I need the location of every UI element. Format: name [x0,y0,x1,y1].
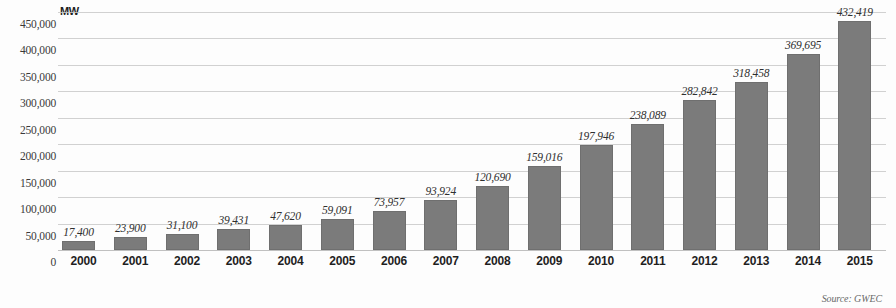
y-axis-tick-label: 100,000 [0,203,56,215]
bar[interactable] [735,82,768,250]
y-axis-tick-label: 50,000 [0,230,56,242]
x-axis-tick-label: 2000 [58,254,109,268]
y-axis-tick-label: 150,000 [0,177,56,189]
bar[interactable] [683,100,716,250]
x-axis-tick-label: 2008 [472,254,523,268]
bar-value-label: 282,842 [670,85,729,97]
bar[interactable] [321,219,354,250]
bar[interactable] [787,54,820,250]
y-axis-tick-label: 250,000 [0,124,56,136]
bar[interactable] [373,211,406,250]
bar[interactable] [476,186,509,250]
x-axis: 2000200120022003200420052006200720082009… [58,254,886,276]
y-axis-tick-label: 400,000 [0,44,56,56]
y-axis-tick-label: 0 [0,256,56,268]
bar-value-label: 31,100 [153,219,212,231]
y-axis-tick-label: 350,000 [0,71,56,83]
x-axis-tick-label: 2005 [317,254,368,268]
bar[interactable] [631,124,664,250]
bar[interactable] [114,237,147,250]
bar-value-label: 93,924 [411,185,470,197]
bar-group: 120,690 [472,12,523,250]
y-axis-tick-label: 200,000 [0,150,56,162]
bar-value-label: 47,620 [256,210,315,222]
bar-group: 23,900 [110,12,161,250]
bar-group: 282,842 [679,12,730,250]
bar-group: 93,924 [420,12,471,250]
bar[interactable] [580,145,613,250]
bar-value-label: 59,091 [308,204,367,216]
bar[interactable] [528,166,561,250]
bar-value-label: 120,690 [463,171,522,183]
bar[interactable] [62,241,95,250]
x-axis-tick-label: 2003 [213,254,264,268]
bar-value-label: 369,695 [774,39,833,51]
x-axis-tick-label: 2010 [576,254,627,268]
x-axis-tick-label: 2004 [265,254,316,268]
bar-group: 59,091 [317,12,368,250]
bar[interactable] [838,21,871,250]
wind-capacity-bar-chart: MW 450,000400,000350,000300,000250,00020… [0,0,896,308]
x-axis-tick-label: 2011 [627,254,678,268]
x-axis-tick-label: 2015 [834,254,885,268]
bar-group: 17,400 [58,12,109,250]
axis-baseline [58,250,886,251]
x-axis-tick-label: 2006 [369,254,420,268]
bar-value-label: 318,458 [722,67,781,79]
bar[interactable] [424,200,457,250]
bar-value-label: 238,089 [618,109,677,121]
bar-value-label: 197,946 [567,130,626,142]
source-note: Source: GWEC [822,293,882,304]
bar-group: 238,089 [627,12,678,250]
bars-layer: 17,40023,90031,10039,43147,62059,09173,9… [58,12,886,250]
bar[interactable] [217,229,250,250]
bar-group: 197,946 [576,12,627,250]
x-axis-tick-label: 2007 [420,254,471,268]
bar-value-label: 159,016 [515,151,574,163]
plot-area: 17,40023,90031,10039,43147,62059,09173,9… [58,12,886,250]
bar-group: 73,957 [369,12,420,250]
x-axis-tick-label: 2002 [162,254,213,268]
bar[interactable] [166,234,199,250]
x-axis-tick-label: 2009 [524,254,575,268]
bar-value-label: 39,431 [204,214,263,226]
x-axis-tick-label: 2013 [731,254,782,268]
bar-group: 432,419 [834,12,885,250]
y-axis-tick-label: 450,000 [0,18,56,30]
bar-group: 369,695 [783,12,834,250]
bar-value-label: 432,419 [825,6,884,18]
y-axis-tick-label: 300,000 [0,97,56,109]
y-axis: 450,000400,000350,000300,000250,000200,0… [0,12,56,250]
x-axis-tick-label: 2014 [783,254,834,268]
bar-value-label: 17,400 [49,226,108,238]
bar[interactable] [269,225,302,250]
x-axis-tick-label: 2012 [679,254,730,268]
x-axis-tick-label: 2001 [110,254,161,268]
bar-value-label: 23,900 [101,222,160,234]
bar-value-label: 73,957 [360,196,419,208]
